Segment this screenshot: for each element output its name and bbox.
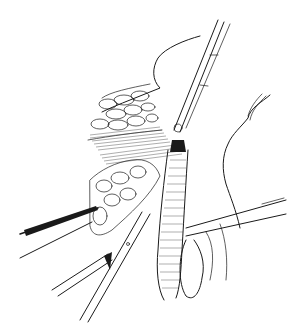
fat-lobules: [91, 84, 158, 130]
lower-right-node: [180, 224, 227, 298]
scissors: [52, 212, 150, 322]
muscle-layer: [88, 127, 182, 164]
top-forceps: [174, 20, 230, 132]
lymph-tissue-cluster: [90, 160, 160, 235]
right-clamp: [186, 198, 286, 236]
surgical-illustration: [0, 0, 307, 336]
right-retractor-edge: [248, 94, 266, 120]
illustration-svg: [0, 0, 307, 336]
right-tissue-wall: [223, 95, 270, 228]
left-forceps: [20, 206, 98, 258]
vessel-bundle: [157, 140, 188, 300]
